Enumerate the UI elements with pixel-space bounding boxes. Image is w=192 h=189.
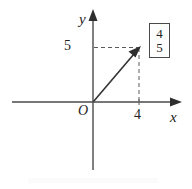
vector-component-y: 5 [156, 41, 163, 55]
y-axis-arrowhead [89, 9, 98, 21]
x-axis-tick-label-4: 4 [134, 108, 141, 122]
column-vector-notation-box: 4 5 [149, 23, 170, 58]
vector-diagram-figure: y x O 5 4 4 5 [0, 0, 192, 189]
y-axis-label: y [79, 12, 86, 27]
x-axis-arrowhead [170, 98, 182, 107]
vector-component-x: 4 [156, 27, 163, 41]
y-axis-tick-label-5: 5 [64, 39, 71, 53]
origin-label: O [78, 104, 88, 118]
scan-artifact [28, 178, 158, 183]
x-axis-label: x [170, 110, 177, 125]
vector-shaft [94, 54, 135, 102]
